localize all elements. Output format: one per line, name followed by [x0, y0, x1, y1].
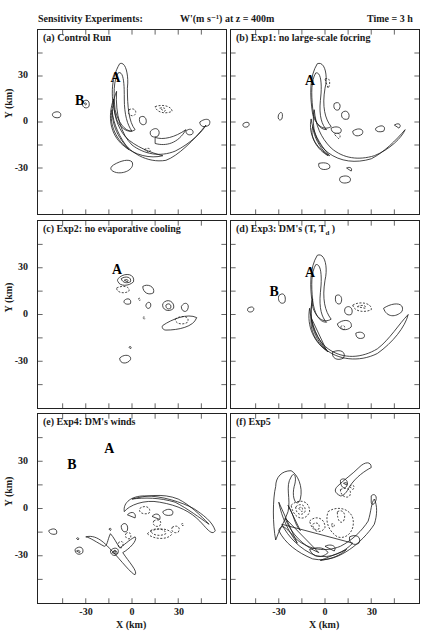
- xtick-30: 30: [357, 606, 387, 617]
- updraft-contour: [86, 534, 136, 575]
- xtick-30: 30: [164, 606, 194, 617]
- updraft-contour: [124, 299, 131, 304]
- contour-plot-d: AB: [231, 221, 419, 408]
- updraft-contour: [384, 304, 403, 316]
- downdraft-contour: [138, 298, 140, 300]
- updraft-contour: [343, 483, 347, 485]
- axis-ticks: [231, 30, 419, 214]
- contour-plot-e: AB: [38, 414, 226, 603]
- panel-label-c: (c) Exp2: no evaporative cooling: [43, 223, 181, 234]
- cell-label-A: A: [110, 70, 120, 85]
- panel-d-exp3: AB (d) Exp3: DM's (T, Td ): [230, 220, 420, 409]
- downdraft-contour: [117, 286, 130, 292]
- updraft-contour: [109, 528, 111, 530]
- downdraft-contour: [350, 485, 354, 489]
- updraft-contour: [278, 112, 282, 120]
- updraft-contour: [181, 303, 188, 311]
- updraft-contour: [337, 320, 351, 329]
- updraft-contour: [162, 316, 197, 330]
- xtick-neg30: -30: [71, 606, 101, 617]
- updraft-contour: [120, 355, 131, 363]
- updraft-contour: [394, 124, 400, 128]
- panel-label-f: (f) Exp5: [236, 416, 271, 427]
- downdraft-contour: [143, 317, 145, 319]
- axis-ticks: [38, 414, 226, 603]
- panel-c-exp2: A (c) Exp2: no evaporative cooling: [37, 220, 227, 409]
- downdraft-contour: [353, 303, 372, 311]
- x-axis-label: X (km): [116, 619, 146, 630]
- axis-ticks: [38, 30, 226, 214]
- updraft-contour: [77, 538, 79, 540]
- downdraft-contour: [153, 520, 160, 527]
- y-axis-label: Y (km): [3, 477, 14, 507]
- downdraft-contour: [334, 133, 340, 139]
- updraft-contour: [342, 111, 350, 119]
- downdraft-contour: [337, 511, 344, 522]
- contour-plot-c: A: [38, 221, 226, 408]
- updraft-contour: [111, 160, 133, 173]
- updraft-contour: [121, 524, 127, 532]
- panel-label-e: (e) Exp4: DM's winds: [43, 416, 136, 427]
- updraft-contour: [139, 116, 146, 124]
- cell-label-A: A: [112, 262, 122, 277]
- cell-label-B: B: [270, 284, 279, 299]
- contour-plot-a: AB: [38, 30, 226, 214]
- panel-f-exp5: (f) Exp5: [230, 413, 420, 604]
- axis-ticks: [38, 221, 226, 408]
- updraft-contour: [186, 129, 193, 135]
- updraft-contour: [152, 514, 160, 519]
- y-axis-label: Y (km): [3, 89, 14, 119]
- updraft-contour: [353, 129, 363, 136]
- xtick-0: 0: [310, 606, 340, 617]
- updraft-contour: [347, 167, 352, 171]
- panel-e-exp4: AB (e) Exp4: DM's winds: [37, 413, 227, 604]
- panel-a-control-run: AB (a) Control Run: [37, 29, 227, 215]
- y-axis-label: Y (km): [3, 283, 14, 313]
- downdraft-contour: [357, 305, 366, 308]
- updraft-contour: [143, 285, 154, 294]
- updraft-contour: [112, 91, 206, 161]
- updraft-contour: [376, 126, 385, 132]
- variable-label: W'(m s⁻¹) at z = 400m: [180, 13, 274, 24]
- downdraft-contour: [331, 524, 334, 528]
- updraft-contour: [129, 347, 131, 349]
- updraft-contour: [166, 304, 171, 309]
- updraft-contour: [279, 499, 377, 560]
- updraft-contour: [155, 130, 186, 145]
- downdraft-contour: [155, 105, 172, 112]
- updraft-contour: [325, 545, 335, 551]
- ytick-30: 30: [4, 455, 28, 466]
- downdraft-contour: [150, 529, 165, 535]
- ytick-neg30: -30: [4, 355, 28, 366]
- xtick-neg30: -30: [264, 606, 294, 617]
- updraft-contour: [127, 512, 135, 517]
- downdraft-contour: [181, 524, 183, 526]
- downdraft-contour: [139, 507, 149, 514]
- updraft-contour: [356, 332, 365, 338]
- contour-plot-b: A: [231, 30, 419, 214]
- panel-b-exp1: A (b) Exp1: no large-scale focring: [230, 29, 420, 215]
- downdraft-contour: [160, 108, 166, 111]
- cell-label-A: A: [305, 73, 315, 88]
- downdraft-contour: [327, 508, 353, 537]
- updraft-contour: [77, 550, 81, 552]
- updraft-contour: [243, 122, 249, 127]
- ytick-30: 30: [4, 261, 28, 272]
- updraft-contour: [248, 307, 254, 312]
- ytick-neg30: -30: [4, 549, 28, 560]
- updraft-contour: [279, 502, 297, 543]
- updraft-contour: [146, 302, 151, 308]
- ytick-neg30: -30: [4, 162, 28, 173]
- figure-title: Sensitivity Experiments:: [38, 13, 143, 24]
- updraft-contour: [163, 509, 173, 515]
- downdraft-contour: [313, 523, 320, 530]
- xtick-0: 0: [117, 606, 147, 617]
- downdraft-contour: [296, 505, 305, 515]
- updraft-contour: [124, 496, 215, 533]
- updraft-contour: [278, 294, 285, 303]
- updraft-contour: [331, 127, 341, 133]
- downdraft-contour: [291, 501, 309, 518]
- cell-label-B: B: [75, 93, 84, 108]
- panel-label-a: (a) Control Run: [43, 32, 111, 43]
- contour-plot-f: [231, 414, 419, 603]
